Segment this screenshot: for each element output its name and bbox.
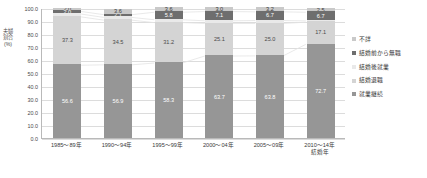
bar-segment[interactable]: 3.6 bbox=[155, 7, 183, 12]
bar-segment[interactable]: 25.0 bbox=[256, 23, 284, 56]
y-axis-tick-label: 80.0 bbox=[28, 32, 39, 38]
stacked-bar[interactable]: 56.934.52.13.6 bbox=[104, 9, 132, 138]
bar-segment-value: 6.7 bbox=[317, 13, 325, 19]
bar-segment[interactable] bbox=[53, 13, 81, 16]
legend-swatch-icon bbox=[352, 51, 356, 55]
bar-segment-value: 3.6 bbox=[114, 9, 122, 14]
bar-segment[interactable]: 5.8 bbox=[155, 11, 183, 19]
bar-segment[interactable]: 3.2 bbox=[256, 7, 284, 11]
bar-segment-value: 56.9 bbox=[113, 98, 124, 104]
legend-item[interactable]: 就業継続 bbox=[352, 91, 426, 97]
bar-segment[interactable]: 34.5 bbox=[104, 19, 132, 64]
stacked-bar[interactable]: 56.637.32.02.0 bbox=[53, 9, 81, 138]
bar-segment[interactable]: 2.0 bbox=[53, 10, 81, 13]
stacked-bar[interactable]: 58.331.25.83.6 bbox=[155, 9, 183, 138]
y-axis-tick-label: 70.0 bbox=[28, 45, 39, 51]
x-axis-tick-label: 2005～09年 bbox=[244, 142, 295, 149]
bar-column: 63.825.06.73.2 bbox=[245, 9, 296, 138]
bar-segment-value: 7.1 bbox=[215, 12, 223, 18]
legend-swatch-icon bbox=[352, 79, 356, 83]
y-axis-tick-label: 20.0 bbox=[28, 110, 39, 116]
x-axis-tick-label: 1990～94年 bbox=[92, 142, 143, 149]
y-axis-ticks: 100.090.080.070.060.050.040.030.020.010.… bbox=[12, 9, 40, 139]
bar-column: 56.637.32.02.0 bbox=[42, 9, 93, 138]
bar-segment[interactable]: 6.7 bbox=[256, 11, 284, 20]
bar-segment[interactable]: 72.7 bbox=[307, 44, 335, 139]
x-axis-labels: 1985～89年1990～94年1995～99年2000～04年2005～09年… bbox=[41, 142, 345, 172]
bar-segment[interactable] bbox=[256, 20, 284, 23]
bar-segment-value: 5.8 bbox=[165, 12, 173, 18]
bar-segment-value: 31.2 bbox=[163, 39, 174, 45]
bar-segment-value: 6.7 bbox=[266, 12, 274, 18]
bar-segment-value: 58.3 bbox=[163, 97, 174, 103]
y-axis-tick-label: 30.0 bbox=[28, 97, 39, 103]
bar-segment-value: 3.2 bbox=[266, 7, 274, 11]
bar-segment[interactable] bbox=[205, 20, 233, 23]
bar-segment[interactable]: 56.6 bbox=[53, 64, 81, 138]
bar-segment[interactable] bbox=[104, 16, 132, 19]
bar-segment-value: 2.0 bbox=[63, 10, 71, 13]
y-axis-tick-label: 90.0 bbox=[28, 19, 39, 25]
legend-item[interactable]: 結婚退職 bbox=[352, 77, 426, 83]
y-axis-tick-label: 10.0 bbox=[28, 123, 39, 129]
bar-segment[interactable] bbox=[307, 20, 335, 21]
bar-segment[interactable]: 2.0 bbox=[53, 8, 81, 11]
bar-segment[interactable]: 56.9 bbox=[104, 64, 132, 138]
plot-area: 56.637.32.02.056.934.52.13.658.331.25.83… bbox=[41, 9, 345, 139]
bar-segment[interactable]: 3.6 bbox=[104, 9, 132, 14]
bar-column: 72.717.16.72.5 bbox=[295, 9, 346, 138]
legend-item[interactable]: 結婚後就業 bbox=[352, 64, 426, 70]
bar-segment[interactable]: 2.5 bbox=[307, 8, 335, 11]
bar-segment[interactable]: 63.8 bbox=[256, 55, 284, 138]
x-axis-tick-label: 1985～89年 bbox=[41, 142, 92, 149]
bar-segment[interactable]: 25.1 bbox=[205, 23, 233, 56]
stacked-bar-chart: 夫婦割合(%) 100.090.080.070.060.050.040.030.… bbox=[0, 0, 427, 178]
legend-item-label: 結婚後就業 bbox=[359, 64, 389, 70]
bar-segment[interactable]: 63.7 bbox=[205, 55, 233, 138]
bar-segment-value: 63.7 bbox=[214, 94, 225, 100]
bar-segment[interactable]: 31.2 bbox=[155, 22, 183, 63]
legend-item-label: 結婚前から無職 bbox=[359, 50, 401, 56]
legend-swatch-icon bbox=[352, 37, 356, 41]
bar-segment[interactable]: 37.3 bbox=[53, 16, 81, 64]
bar-segment[interactable]: 6.7 bbox=[307, 11, 335, 20]
bar-segment[interactable]: 3.0 bbox=[205, 7, 233, 11]
bar-segment-value: 56.6 bbox=[62, 98, 73, 104]
bar-segment[interactable]: 58.3 bbox=[155, 62, 183, 138]
bar-segment-value: 3.6 bbox=[165, 7, 173, 12]
bar-segment[interactable]: 17.1 bbox=[307, 21, 335, 43]
legend-item[interactable]: 不詳 bbox=[352, 36, 426, 42]
bar-segment-value: 2.0 bbox=[63, 8, 71, 11]
y-axis-tick-label: 100.0 bbox=[25, 6, 39, 12]
legend-item-label: 不詳 bbox=[359, 36, 371, 42]
bar-segment-value: 63.8 bbox=[265, 94, 276, 100]
bar-segment-value: 34.5 bbox=[113, 39, 124, 45]
bar-segment[interactable]: 2.1 bbox=[104, 14, 132, 17]
bar-segment-value: 3.0 bbox=[215, 7, 223, 11]
bar-segment-value: 72.7 bbox=[315, 88, 326, 94]
x-axis-label-suffix: 結婚年 bbox=[294, 149, 345, 156]
bar-segment-value: 2.5 bbox=[317, 8, 325, 11]
bar-group: 56.637.32.02.056.934.52.13.658.331.25.83… bbox=[42, 9, 345, 138]
y-axis-tick-label: 40.0 bbox=[28, 84, 39, 90]
bar-segment-value: 25.0 bbox=[265, 36, 276, 42]
x-axis-tick-label: 1995～99年 bbox=[142, 142, 193, 149]
chart-legend: 不詳結婚前から無職結婚後就業結婚退職就業継続 bbox=[352, 36, 426, 105]
bar-segment[interactable] bbox=[155, 19, 183, 22]
bar-segment-value: 2.1 bbox=[114, 14, 122, 17]
legend-item-label: 結婚退職 bbox=[359, 77, 383, 83]
gridline bbox=[42, 139, 345, 140]
stacked-bar[interactable]: 63.725.17.13.0 bbox=[205, 9, 233, 138]
y-axis-tick-label: 0.0 bbox=[31, 136, 39, 142]
bar-column: 63.725.17.13.0 bbox=[194, 9, 245, 138]
stacked-bar[interactable]: 63.825.06.73.2 bbox=[256, 9, 284, 138]
bar-segment[interactable]: 7.1 bbox=[205, 11, 233, 20]
x-axis-tick-label: 2000～04年 bbox=[193, 142, 244, 149]
legend-item[interactable]: 結婚前から無職 bbox=[352, 50, 426, 56]
bar-segment-value: 37.3 bbox=[62, 37, 73, 43]
y-axis-tick-label: 60.0 bbox=[28, 58, 39, 64]
legend-swatch-icon bbox=[352, 65, 356, 69]
stacked-bar[interactable]: 72.717.16.72.5 bbox=[307, 9, 335, 138]
legend-item-label: 就業継続 bbox=[359, 91, 383, 97]
bar-column: 56.934.52.13.6 bbox=[93, 9, 144, 138]
